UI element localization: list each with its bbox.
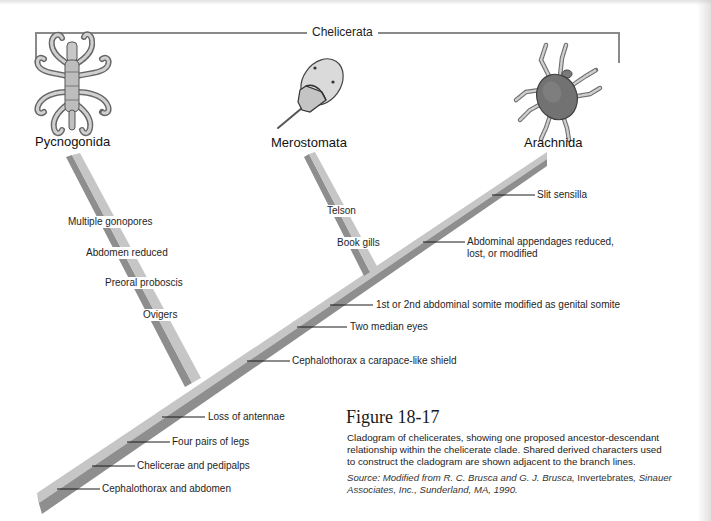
figure-source: Source: Modified from R. C. Brusca and G… xyxy=(347,472,672,496)
character-label: Chelicerae and pedipalps xyxy=(137,460,250,472)
character-label: Book gills xyxy=(336,237,381,249)
character-label-line: Abdominal appendages reduced, xyxy=(467,236,614,248)
character-label: Slit sensilla xyxy=(537,189,587,201)
cladogram-figure: Chelicerata Pycnogonida Merostomata Arac… xyxy=(0,0,711,521)
pycnogonida-branch xyxy=(66,153,201,387)
character-label: Loss of antennae xyxy=(208,411,285,423)
caption-line: relationship within the chelicerate clad… xyxy=(347,444,662,456)
horseshoe-crab-illustration xyxy=(278,51,352,128)
source-text: , Sinauer xyxy=(633,472,671,483)
character-label-multiline: Abdominal appendages reduced, lost, or m… xyxy=(467,236,614,260)
character-label: Preoral proboscis xyxy=(104,277,184,289)
caption-line: Cladogram of chelicerates, showing one p… xyxy=(347,432,662,444)
source-book-title: Invertebrates xyxy=(577,472,633,483)
taxon-pycnogonida: Pycnogonida xyxy=(35,134,110,150)
character-label: Four pairs of legs xyxy=(172,436,249,448)
page-edge-shadow-top xyxy=(0,0,711,5)
character-label: Multiple gonopores xyxy=(67,216,154,228)
character-label: Cephalothorax and abdomen xyxy=(102,483,231,495)
clade-title: Chelicerata xyxy=(307,25,378,39)
taxon-merostomata: Merostomata xyxy=(271,135,347,151)
character-label: Telson xyxy=(326,205,357,217)
figure-label: Figure 18-17 xyxy=(346,406,440,428)
figure-caption: Cladogram of chelicerates, showing one p… xyxy=(347,432,662,467)
character-label: 1st or 2nd abdominal somite modified as … xyxy=(376,299,620,311)
character-label: Two median eyes xyxy=(350,321,428,333)
taxon-arachnida: Arachnida xyxy=(524,135,583,151)
source-line: Associates, Inc., Sunderland, MA, 1990. xyxy=(347,484,672,496)
character-label: Cephalothorax a carapace-like shield xyxy=(292,355,457,367)
source-text: Source: Modified from R. C. Brusca and G… xyxy=(347,472,577,483)
character-label: Abdomen reduced xyxy=(85,247,169,259)
character-label: Ovigers xyxy=(142,309,178,321)
source-line: Source: Modified from R. C. Brusca and G… xyxy=(347,472,672,484)
sea-spider-illustration xyxy=(37,34,108,133)
character-label-line: lost, or modified xyxy=(467,248,614,260)
mite-illustration xyxy=(516,45,600,140)
page-edge-shadow-right xyxy=(697,0,711,521)
caption-line: to construct the cladogram are shown adj… xyxy=(347,456,662,468)
